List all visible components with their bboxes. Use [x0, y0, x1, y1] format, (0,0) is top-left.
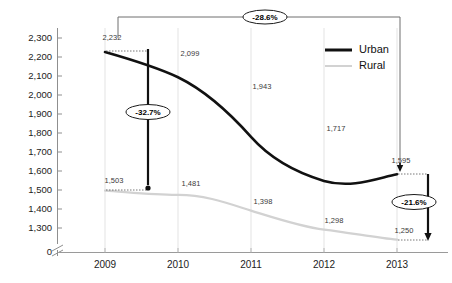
y-tick-label: 2,200 — [28, 51, 52, 62]
data-label-urban: 1,717 — [327, 124, 346, 133]
y-tick-label: 1,800 — [28, 127, 52, 138]
x-axis — [58, 248, 449, 253]
y-tick-label: 2,300 — [28, 32, 52, 43]
y-tick-label: 1,500 — [28, 184, 52, 195]
y-tick-label: 1,900 — [28, 108, 52, 119]
y-tick-label: 1,700 — [28, 146, 52, 157]
y-tick-label: 2,100 — [28, 70, 52, 81]
data-label-rural: 1,298 — [325, 216, 344, 225]
line-chart: 2,300 2,200 2,100 2,000 1,900 1,800 1,70… — [0, 0, 452, 283]
legend-item-urban[interactable]: Urban — [325, 43, 389, 55]
annotation-label: -32.7% — [135, 108, 160, 117]
legend-item-rural[interactable]: Rural — [325, 59, 385, 71]
data-label-urban: 2,232 — [103, 33, 122, 42]
legend-label-urban: Urban — [359, 43, 389, 55]
x-tick-label: 2010 — [167, 259, 190, 270]
data-label-rural: 1,398 — [254, 197, 273, 206]
y-axis — [52, 28, 63, 256]
annotation-label: -28.6% — [252, 13, 277, 22]
rural-data-labels: 1,503 1,481 1,398 1,298 1,250 — [105, 176, 414, 235]
x-tick-label: 2013 — [386, 259, 409, 270]
x-tick-labels: 2009 2010 2011 2012 2013 — [94, 259, 409, 270]
y-tick-labels: 2,300 2,200 2,100 2,000 1,900 1,800 1,70… — [28, 32, 52, 257]
y-tick-label: 1,600 — [28, 165, 52, 176]
y-tick-label: 1,400 — [28, 203, 52, 214]
data-label-rural: 1,250 — [395, 226, 414, 235]
data-label-rural: 1,503 — [105, 176, 124, 185]
chart-container: 2,300 2,200 2,100 2,000 1,900 1,800 1,70… — [0, 0, 452, 283]
y-tick-label: 1,300 — [28, 222, 52, 233]
y-tick-label-zero: 0 — [47, 246, 52, 257]
legend-label-rural: Rural — [359, 59, 385, 71]
y-tick-label: 2,000 — [28, 89, 52, 100]
data-label-urban: 2,099 — [181, 49, 200, 58]
annotation-label: -21.6% — [401, 198, 426, 207]
data-label-urban: 1,595 — [392, 156, 411, 165]
data-label-rural: 1,481 — [182, 179, 201, 188]
x-tick-label: 2009 — [94, 259, 117, 270]
data-label-urban: 1,943 — [253, 82, 272, 91]
legend: Urban Rural — [325, 43, 389, 71]
x-tick-label: 2012 — [313, 259, 336, 270]
x-tick-label: 2011 — [240, 259, 262, 270]
